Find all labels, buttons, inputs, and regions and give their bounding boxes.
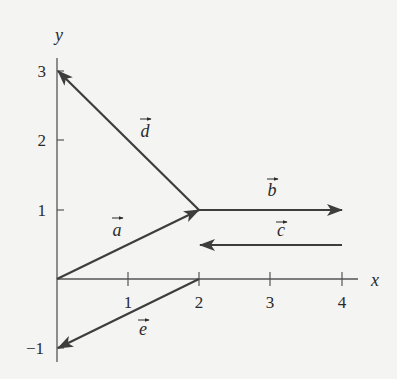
svg-text:d: d [141, 121, 151, 141]
svg-text:b: b [268, 180, 277, 200]
vector-e [58, 279, 199, 348]
x-tick-label-1: 1 [124, 293, 133, 312]
x-tick-label-4: 4 [338, 293, 347, 312]
vector-label-d: d [140, 119, 151, 141]
vector-label-e: e [138, 319, 149, 339]
y-tick-label-3: 3 [38, 62, 47, 81]
y-tick-label-1: 1 [38, 201, 47, 220]
x-tick-label-2: 2 [195, 293, 204, 312]
vector-label-b: b [267, 179, 278, 200]
diagram-canvas: 1 2 3 4 3 2 1 −1 y x a b c d [0, 0, 397, 379]
vector-label-a: a [112, 218, 123, 240]
svg-text:a: a [113, 220, 122, 240]
svg-text:e: e [139, 319, 147, 339]
x-tick-label-3: 3 [266, 293, 275, 312]
vector-a [57, 210, 199, 279]
y-axis-label: y [53, 25, 63, 45]
vector-diagram: 1 2 3 4 3 2 1 −1 y x a b c d [0, 0, 397, 379]
svg-text:c: c [277, 220, 285, 240]
y-ticks [57, 71, 64, 348]
x-axis-label: x [370, 270, 379, 290]
vector-label-c: c [276, 220, 287, 240]
vector-d [58, 71, 199, 210]
y-tick-label-2: 2 [38, 131, 47, 150]
y-tick-label-neg1: −1 [26, 339, 44, 358]
